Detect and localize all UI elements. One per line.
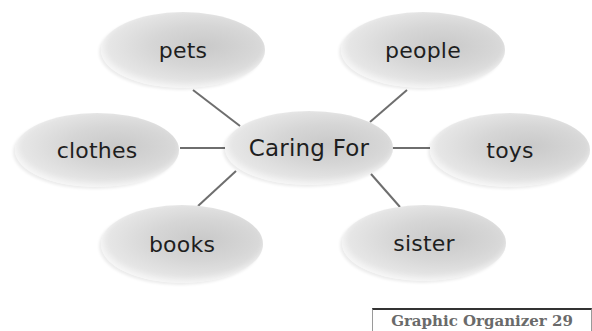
node-label-people: people <box>385 38 461 63</box>
node-books: books <box>101 205 263 283</box>
center-node: Caring For <box>225 111 393 185</box>
node-label-clothes: clothes <box>57 138 138 163</box>
caption-box: Graphic Organizer 29 <box>372 308 592 331</box>
connector-line-pets <box>193 90 240 126</box>
node-clothes: clothes <box>15 113 179 187</box>
connector-line-sister <box>371 174 400 207</box>
node-label-sister: sister <box>393 231 454 256</box>
center-node-label: Caring For <box>249 135 369 161</box>
node-pets: pets <box>101 12 265 88</box>
node-label-books: books <box>149 232 215 257</box>
node-toys: toys <box>430 113 590 187</box>
connector-line-books <box>198 171 236 206</box>
connector-line-people <box>370 90 407 122</box>
node-sister: sister <box>342 205 506 281</box>
graphic-organizer: pets people clothes toys books sister Ca… <box>0 0 592 331</box>
node-label-pets: pets <box>159 38 207 63</box>
node-label-toys: toys <box>486 138 533 163</box>
caption-title: Graphic Organizer 29 <box>391 312 573 330</box>
node-people: people <box>341 12 505 88</box>
